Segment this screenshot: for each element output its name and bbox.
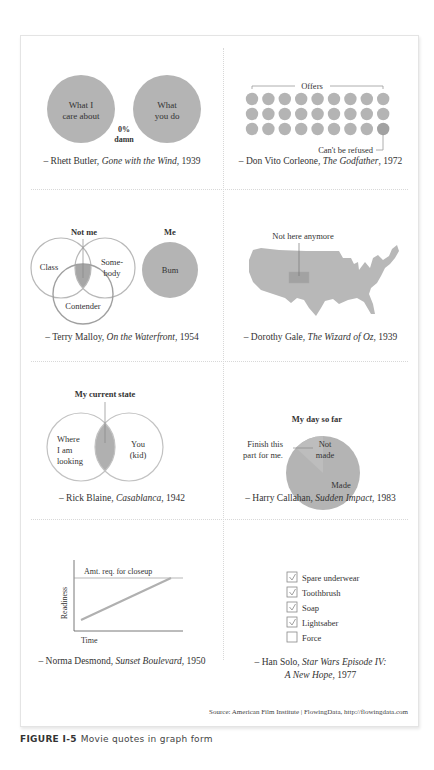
checklist-item: Spare underwear <box>287 572 360 583</box>
what-you-do-label: Whatyou do <box>155 100 180 121</box>
han-quote: – Han Solo, Star Wars Episode IV:A New H… <box>223 656 418 682</box>
offer-dot <box>361 93 373 105</box>
offer-dot <box>246 93 258 105</box>
offer-dot <box>279 108 291 120</box>
dorothy-map: Not here anymore <box>249 231 399 316</box>
contender-label: Contender <box>65 301 101 311</box>
corleone-unit-chart: Offers Can't be refused <box>246 81 390 155</box>
closeup-label: Amt. req. for closeup <box>84 567 152 576</box>
cant-be-refused-label: Can't be refused <box>318 145 374 155</box>
bum-label: Bum <box>162 265 179 275</box>
refused-offer-dot <box>377 123 389 135</box>
checklist-item: Lightsaber <box>287 617 339 628</box>
offer-dot <box>246 123 258 135</box>
not-here-anymore-label: Not here anymore <box>272 231 334 241</box>
y-axis-label: Readiness <box>60 587 69 619</box>
offer-dot <box>344 123 356 135</box>
offer-dot <box>262 108 274 120</box>
check-mark-icon <box>290 604 296 610</box>
rhett-venn: What Icare about Whatyou do 0% damn <box>47 75 201 144</box>
checklist-item: Toothbrush <box>287 587 341 598</box>
offer-dot <box>344 108 356 120</box>
looking-label: WhereI amlooking <box>57 434 84 466</box>
checklist-label: Toothbrush <box>302 588 341 598</box>
malloy-venn: Not me Class Some-body Contender Me Bum <box>31 227 198 324</box>
offer-dot <box>295 123 307 135</box>
source-note: Source: American Film Institute | Flowin… <box>209 708 408 716</box>
somebody-label: Some-body <box>101 257 123 278</box>
rick-quote: – Rick Blaine, Casablanca, 1942 <box>21 493 223 503</box>
corleone-quote: – Don Vito Corleone, The Godfather, 1972 <box>223 156 418 166</box>
checklist-label: Lightsaber <box>302 618 339 628</box>
made-label: Made <box>331 480 351 490</box>
offer-dot <box>328 123 340 135</box>
checkbox <box>287 632 297 642</box>
offer-dot <box>311 93 323 105</box>
offer-dot <box>295 108 307 120</box>
figure-label: FIGURE I-5 <box>20 734 77 744</box>
finish-this-label: Finish thispart for me. <box>243 439 283 460</box>
offer-dot <box>361 123 373 135</box>
me-title: Me <box>164 227 176 237</box>
not-me-title: Not me <box>71 227 97 237</box>
class-label: Class <box>40 262 58 272</box>
offer-dot <box>295 93 307 105</box>
dorothy-quote: – Dorothy Gale, The Wizard of Oz, 1939 <box>223 332 418 342</box>
offer-dot <box>377 108 389 120</box>
check-mark-icon <box>290 574 296 580</box>
checklist-label: Spare underwear <box>302 573 360 583</box>
offer-dot <box>344 93 356 105</box>
checklist-label: Soap <box>302 603 319 613</box>
rhett-quote: – Rhett Butler, Gone with the Wind, 1939 <box>21 156 223 166</box>
checklist-item: Soap <box>287 602 319 613</box>
overlap-label: damn <box>114 135 134 144</box>
checklist-item: Force <box>287 632 322 643</box>
offer-dot <box>262 123 274 135</box>
han-checklist: Spare underwearToothbrushSoapLightsaberF… <box>287 572 360 643</box>
figure-frame: What Icare about Whatyou do 0% damn Offe… <box>20 35 419 727</box>
check-mark-icon <box>290 619 296 625</box>
offer-dot <box>311 123 323 135</box>
offer-dot <box>246 108 258 120</box>
figure-title: Movie quotes in graph form <box>81 734 213 744</box>
overlap-value: 0% <box>118 125 130 134</box>
offer-dot <box>279 123 291 135</box>
offer-dot <box>328 93 340 105</box>
usa-map-shape <box>249 245 399 316</box>
you-kid-label: You(kid) <box>130 439 147 460</box>
x-axis-label: Time <box>81 636 98 645</box>
checklist-label: Force <box>302 633 322 643</box>
offer-dots <box>246 93 390 135</box>
check-mark-icon <box>290 589 296 595</box>
figure-caption: FIGURE I-5Movie quotes in graph form <box>20 734 213 744</box>
offer-dot <box>328 108 340 120</box>
harry-quote: – Harry Callahan, Sudden Impact, 1983 <box>223 493 418 503</box>
offers-label: Offers <box>301 81 323 91</box>
norma-line-chart: Amt. req. for closeup Readiness Time <box>60 560 183 645</box>
offer-dot <box>262 93 274 105</box>
current-state-title: My current state <box>75 389 136 399</box>
offer-dot <box>377 93 389 105</box>
offer-dot <box>361 108 373 120</box>
malloy-quote: – Terry Malloy, On the Waterfront, 1954 <box>21 332 223 342</box>
readiness-line <box>81 578 171 620</box>
norma-quote: – Norma Desmond, Sunset Boulevard, 1950 <box>21 656 223 666</box>
rick-venn: My current state WhereI amlooking You(ki… <box>47 389 163 481</box>
my-day-title: My day so far <box>292 414 343 424</box>
offer-dot <box>279 93 291 105</box>
offer-dot <box>311 108 323 120</box>
quotes-graphics: What Icare about Whatyou do 0% damn Offe… <box>21 36 418 726</box>
